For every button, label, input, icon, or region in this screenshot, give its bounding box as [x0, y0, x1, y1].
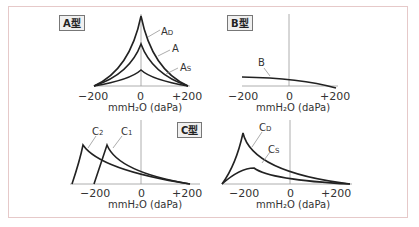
tick-neg200: −200	[228, 90, 258, 103]
curve-label-cs: CS	[268, 144, 280, 155]
axis-unit: mmH₂O (daPa)	[256, 102, 330, 113]
curve-label-ad: AD	[161, 26, 173, 37]
curve-label-cd: CD	[259, 122, 271, 133]
tick-neg200: −200	[78, 90, 108, 103]
tympanogram-figure: AD A AS −200 0 +200 mmH₂O (daPa) B −200 …	[0, 0, 419, 227]
panel-b	[242, 14, 338, 88]
curve-label-c1: C1	[121, 126, 132, 137]
type-label-c: C型	[177, 122, 202, 138]
curve-label-c2: C2	[92, 126, 103, 137]
tick-neg200: −200	[229, 187, 259, 200]
type-label-a: A型	[59, 15, 85, 31]
axis-unit: mmH₂O (daPa)	[108, 199, 182, 210]
curve-label-b: B	[258, 57, 265, 68]
panel-c-right	[222, 120, 352, 184]
axis-unit: mmH₂O (daPa)	[256, 199, 330, 210]
tick-neg200: −200	[80, 187, 110, 200]
curve-label-as: AS	[180, 62, 192, 73]
curve-label-a: A	[172, 43, 179, 54]
type-label-b: B型	[227, 15, 253, 31]
axis-unit: mmH₂O (daPa)	[108, 102, 182, 113]
